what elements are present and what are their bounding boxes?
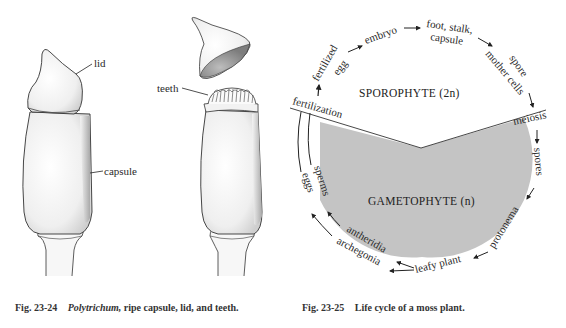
line-sperms-to-fertilization bbox=[308, 113, 311, 165]
caption-text: Life cycle of a moss plant. bbox=[355, 302, 465, 313]
caption-fig-23-25: Fig. 23-25 Life cycle of a moss plant. bbox=[302, 302, 465, 313]
stage-egg: egg bbox=[330, 57, 350, 77]
caption-number: Fig. 23-25 bbox=[302, 302, 344, 313]
arrow-capsule-to-spore-mother-cells bbox=[478, 38, 492, 46]
sporophyte-label: SPOROPHYTE (2n) bbox=[359, 87, 460, 100]
stage-spores: spores bbox=[532, 147, 546, 176]
stage-embryo: embryo bbox=[363, 23, 399, 46]
line-eggs-to-fertilization bbox=[298, 112, 301, 172]
caption-text: ripe capsule, lid, and teeth. bbox=[121, 302, 238, 313]
arrow-leafy-to-antheridia bbox=[397, 262, 414, 268]
arrow-archegonia-to-eggs bbox=[312, 214, 332, 236]
figure-moss-life-cycle: SPOROPHYTE (2n) GAMETOPHYTE (n) fertiliz… bbox=[0, 0, 566, 328]
arrow-egg-to-embryo bbox=[348, 46, 362, 52]
gametophyte-label: GAMETOPHYTE (n) bbox=[368, 195, 475, 208]
caption-number: Fig. 23-24 bbox=[15, 302, 57, 313]
caption-genus: Polytrichum, bbox=[68, 302, 122, 313]
arrow-to-meiosis bbox=[529, 93, 533, 107]
arrow-leafy-to-archegonia bbox=[390, 270, 414, 271]
caption-fig-23-24: Fig. 23-24 Polytrichum, ripe capsule, li… bbox=[15, 302, 239, 313]
stage-meiosis: meiosis bbox=[512, 108, 547, 127]
arrow-spores-to-protonema bbox=[527, 188, 534, 199]
arrow-protonema-to-leafy-plant bbox=[474, 252, 488, 258]
arrow-fertilization-to-egg bbox=[318, 85, 319, 96]
